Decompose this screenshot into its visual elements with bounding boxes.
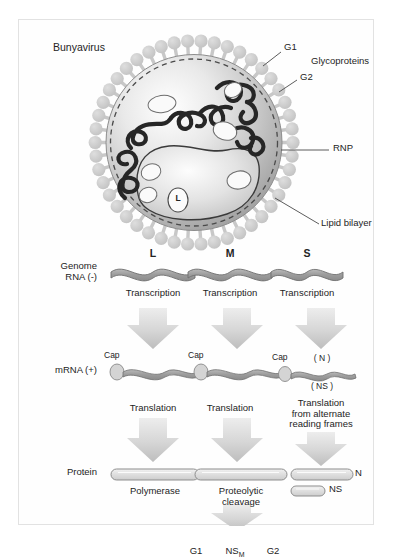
- row-label-mrna: mRNA (+): [27, 365, 97, 376]
- n-protein-label: N: [355, 468, 362, 479]
- row-label-genome-rna: Genome RNA (-): [27, 261, 97, 282]
- m-cap-label: Cap: [188, 351, 204, 361]
- g1-product-label: G1: [190, 546, 203, 557]
- callout-g2: G2: [300, 72, 313, 83]
- m-transcription-label: Transcription: [203, 288, 258, 299]
- l-transcription-label: Transcription: [126, 288, 181, 299]
- row-label-protein: Protein: [27, 467, 97, 478]
- callout-lipid-bilayer: Lipid bilayer: [321, 218, 372, 229]
- segment-header-m: M: [226, 248, 235, 260]
- callout-glycoproteins: Glycoproteins: [311, 56, 369, 67]
- s-transcription-label: Transcription: [280, 288, 335, 299]
- proteolytic-cleavage-label: Proteolytic cleavage: [196, 486, 286, 507]
- callout-g1: G1: [284, 42, 297, 53]
- s-translation-label: Translation from alternate reading frame…: [273, 398, 369, 430]
- ns-protein-label: NS: [329, 484, 342, 495]
- nsm-product-subscript: M: [239, 551, 245, 558]
- segment-header-s: S: [303, 248, 310, 260]
- l-translation-label: Translation: [130, 403, 177, 414]
- g2-product-label: G2: [267, 546, 280, 557]
- polymerase-label: Polymerase: [130, 486, 180, 497]
- nsm-product-label: NSM: [225, 546, 244, 559]
- l-cap-label: Cap: [104, 351, 120, 361]
- s-orf-ns-label: ( NS ): [311, 382, 333, 392]
- segment-header-l: L: [150, 248, 156, 260]
- row-label-genome-line2: RNA (-): [27, 272, 97, 283]
- figure-frame: Bunyavirus G1 Glycoproteins G2 RNP Lipid…: [18, 19, 374, 525]
- m-translation-label: Translation: [207, 403, 254, 414]
- s-cap-label: Cap: [272, 353, 288, 363]
- callout-rnp: RNP: [333, 143, 353, 154]
- figure-title: Bunyavirus: [53, 42, 105, 54]
- l-polymerase-label: L: [175, 194, 180, 204]
- s-orf-n-label: ( N ): [314, 354, 331, 364]
- s-translation-line3: reading frames: [273, 419, 369, 430]
- proteolytic-line2: cleavage: [196, 497, 286, 508]
- nsm-product-base: NS: [225, 545, 238, 556]
